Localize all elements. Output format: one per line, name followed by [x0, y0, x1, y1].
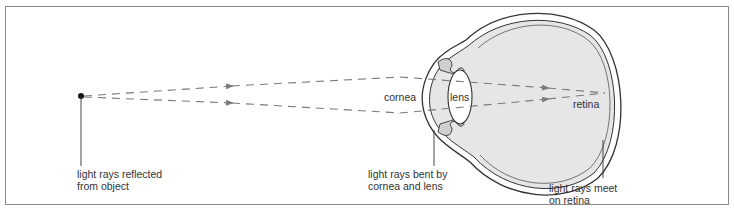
- object-label: light rays reflected from object: [77, 168, 162, 192]
- meet-label: light rays meet on retina: [549, 182, 617, 206]
- lens-label: lens: [450, 91, 469, 103]
- bent-label: light rays bent by cornea and lens: [368, 168, 447, 192]
- retina-label: retina: [573, 98, 599, 110]
- cornea-label: cornea: [384, 91, 416, 103]
